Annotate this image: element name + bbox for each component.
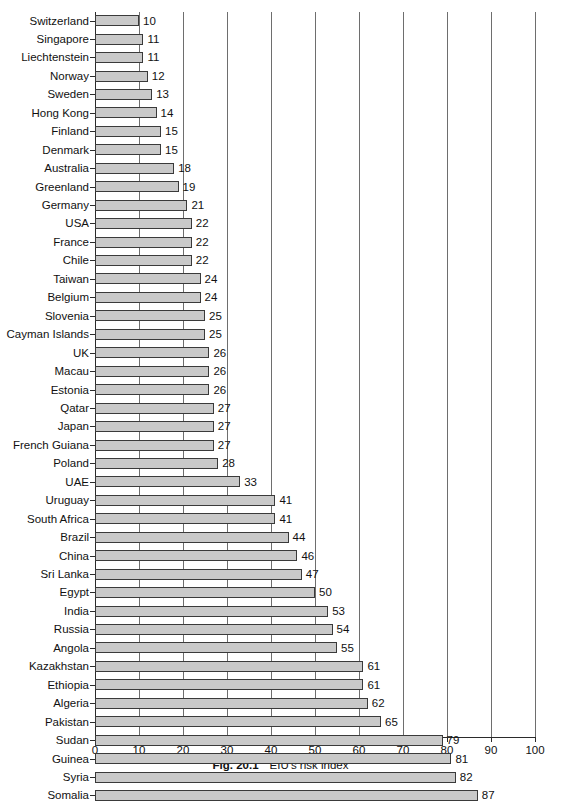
category-tick bbox=[90, 21, 95, 22]
bar-russia bbox=[95, 624, 333, 635]
chart-row: 11 bbox=[95, 49, 535, 67]
bar-value-label: 22 bbox=[196, 252, 209, 269]
bar-value-label: 10 bbox=[143, 13, 156, 30]
category-tick bbox=[90, 703, 95, 704]
category-tick bbox=[90, 574, 95, 575]
bar-value-label: 24 bbox=[205, 289, 218, 306]
chart-row: 25 bbox=[95, 326, 535, 344]
category-tick bbox=[90, 795, 95, 796]
chart-row: 24 bbox=[95, 270, 535, 288]
bar-switzerland bbox=[95, 15, 139, 26]
bar-slovenia bbox=[95, 310, 205, 321]
chart-row: 25 bbox=[95, 307, 535, 325]
chart-row: 41 bbox=[95, 492, 535, 510]
category-tick bbox=[90, 537, 95, 538]
bar-value-label: 61 bbox=[367, 658, 380, 675]
category-label: Taiwan bbox=[0, 271, 89, 288]
chart-row: 21 bbox=[95, 197, 535, 215]
category-tick bbox=[90, 279, 95, 280]
category-label: South Africa bbox=[0, 511, 89, 528]
bar-value-label: 53 bbox=[332, 603, 345, 620]
category-label: Kazakhstan bbox=[0, 658, 89, 675]
chart-row: 62 bbox=[95, 695, 535, 713]
bar-value-label: 41 bbox=[279, 492, 292, 509]
bar-value-label: 65 bbox=[385, 714, 398, 731]
chart-row: 55 bbox=[95, 639, 535, 657]
bar-japan bbox=[95, 421, 214, 432]
chart-row: 22 bbox=[95, 215, 535, 233]
chart-row: 87 bbox=[95, 787, 535, 805]
category-label: Japan bbox=[0, 418, 89, 435]
bar-value-label: 26 bbox=[213, 363, 226, 380]
category-label: USA bbox=[0, 215, 89, 232]
bar-value-label: 87 bbox=[482, 787, 495, 804]
bar-taiwan bbox=[95, 273, 201, 284]
category-label: Uruguay bbox=[0, 492, 89, 509]
category-label: Poland bbox=[0, 455, 89, 472]
category-tick bbox=[90, 722, 95, 723]
category-tick bbox=[90, 426, 95, 427]
bar-value-label: 27 bbox=[218, 437, 231, 454]
bar-poland bbox=[95, 458, 218, 469]
category-tick bbox=[90, 57, 95, 58]
category-label: Egypt bbox=[0, 584, 89, 601]
chart-row: 13 bbox=[95, 86, 535, 104]
chart-row: 81 bbox=[95, 750, 535, 768]
chart-row: 26 bbox=[95, 344, 535, 362]
chart-row: 54 bbox=[95, 621, 535, 639]
chart-row: 27 bbox=[95, 399, 535, 417]
bar-finland bbox=[95, 126, 161, 137]
category-label: Germany bbox=[0, 197, 89, 214]
chart-row: 79 bbox=[95, 732, 535, 750]
category-tick bbox=[90, 463, 95, 464]
category-tick bbox=[90, 445, 95, 446]
category-tick bbox=[90, 131, 95, 132]
category-label: UAE bbox=[0, 474, 89, 491]
category-tick bbox=[90, 353, 95, 354]
bar-uae bbox=[95, 476, 240, 487]
bar-value-label: 12 bbox=[152, 68, 165, 85]
category-label: Qatar bbox=[0, 400, 89, 417]
category-tick bbox=[90, 39, 95, 40]
chart-row: 15 bbox=[95, 141, 535, 159]
category-label: Sweden bbox=[0, 86, 89, 103]
bar-value-label: 25 bbox=[209, 308, 222, 325]
category-tick bbox=[90, 740, 95, 741]
bar-value-label: 24 bbox=[205, 271, 218, 288]
category-label: China bbox=[0, 548, 89, 565]
bar-value-label: 18 bbox=[178, 160, 191, 177]
category-label: Denmark bbox=[0, 142, 89, 159]
bar-pakistan bbox=[95, 716, 381, 727]
bar-value-label: 50 bbox=[319, 584, 332, 601]
bar-value-label: 11 bbox=[147, 49, 159, 66]
bar-somalia bbox=[95, 790, 478, 801]
bar-value-label: 25 bbox=[209, 326, 222, 343]
chart-row: 61 bbox=[95, 658, 535, 676]
category-tick bbox=[90, 777, 95, 778]
chart-row: 22 bbox=[95, 233, 535, 251]
bar-denmark bbox=[95, 144, 161, 155]
category-label: Finland bbox=[0, 123, 89, 140]
chart-row: 19 bbox=[95, 178, 535, 196]
category-tick bbox=[90, 334, 95, 335]
bar-french-guiana bbox=[95, 440, 214, 451]
bar-value-label: 19 bbox=[183, 179, 196, 196]
category-label: Brazil bbox=[0, 529, 89, 546]
bar-value-label: 14 bbox=[161, 105, 174, 122]
bar-value-label: 26 bbox=[213, 345, 226, 362]
category-label: Greenland bbox=[0, 179, 89, 196]
category-label: Sri Lanka bbox=[0, 566, 89, 583]
bar-value-label: 15 bbox=[165, 142, 178, 159]
bar-brazil bbox=[95, 532, 289, 543]
chart-row: 26 bbox=[95, 363, 535, 381]
category-label: Switzerland bbox=[0, 13, 89, 30]
category-tick bbox=[90, 297, 95, 298]
category-label: Macau bbox=[0, 363, 89, 380]
bar-value-label: 47 bbox=[306, 566, 319, 583]
chart-row: 50 bbox=[95, 584, 535, 602]
category-label: Russia bbox=[0, 621, 89, 638]
bar-algeria bbox=[95, 698, 368, 709]
category-label: Syria bbox=[0, 769, 89, 786]
category-label: Norway bbox=[0, 68, 89, 85]
